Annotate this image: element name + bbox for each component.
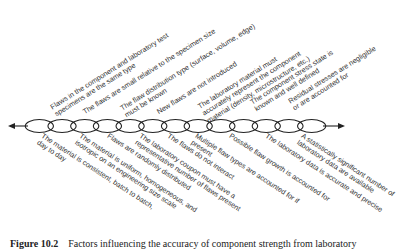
chain-link [252, 120, 280, 133]
caption-label: Figure 10.2 [10, 238, 58, 249]
chain-link [298, 120, 326, 133]
caption-text: Factors influencing the accuracy of comp… [68, 238, 356, 249]
diagram: Flaws in the component and laboratory te… [0, 0, 417, 249]
chain-link [116, 120, 144, 133]
right-arrowhead-icon [338, 123, 345, 129]
left-arrowhead-icon [8, 123, 15, 129]
chain-link [71, 120, 99, 133]
chain-link [48, 120, 76, 133]
chain-link [25, 120, 53, 133]
chain-link [93, 120, 121, 133]
chain-link [230, 120, 258, 133]
chain-link [161, 120, 189, 133]
chain-link [275, 120, 303, 133]
figure-caption: Figure 10.2Factors influencing the accur… [10, 238, 356, 249]
